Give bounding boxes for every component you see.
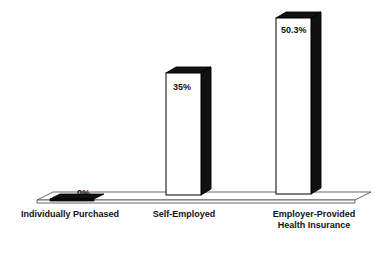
- bar-employer-provided: [276, 12, 321, 194]
- bar-2-side: [201, 67, 211, 195]
- bar-3-front: [276, 18, 311, 194]
- bar-3-side: [311, 12, 321, 194]
- data-label-employer-provided: 50.3%: [281, 25, 307, 35]
- bar-chart: 0% 35% 50.3% Individually Purchased Self…: [0, 0, 386, 254]
- category-label-self-employed: Self-Employed: [134, 209, 234, 220]
- bar-1-front: [50, 199, 94, 201]
- data-label-self-employed: 35%: [173, 82, 191, 92]
- data-label-individually-purchased: 0%: [77, 188, 90, 198]
- category-label-line: Health Insurance: [244, 220, 384, 231]
- category-label-line: Individually Purchased: [0, 209, 140, 220]
- category-label-individually-purchased: Individually Purchased: [0, 209, 140, 220]
- category-label-employer-provided: Employer-Provided Health Insurance: [244, 209, 384, 231]
- category-label-line: Self-Employed: [134, 209, 234, 220]
- category-label-line: Employer-Provided: [244, 209, 384, 220]
